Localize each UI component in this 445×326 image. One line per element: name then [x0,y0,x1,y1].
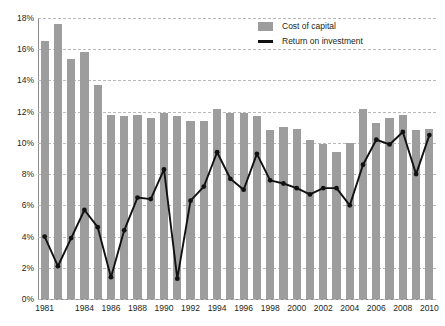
x-axis-tick-label: 2000 [287,303,306,313]
roi-data-point [241,187,246,192]
roi-data-point [82,208,87,213]
roi-data-point [122,228,127,233]
roi-data-point [387,142,392,147]
legend-item-return-on-investment: Return on investment [258,35,363,48]
y-axis-tick-label: 12% [17,107,34,117]
x-axis-tick-label: 1981 [35,303,54,313]
roi-data-point [268,178,273,183]
roi-data-point [162,167,167,172]
roi-data-point [414,172,419,177]
y-axis-tick-label: 6% [22,200,34,210]
plot-area [38,18,436,299]
roi-data-point [56,264,61,269]
line-series-return-on-investment [38,18,436,299]
legend-bar-swatch-icon [258,22,273,31]
roi-data-point [175,276,180,281]
legend-label-return-on-investment: Return on investment [282,37,363,47]
roi-data-point [201,184,206,189]
roi-data-point [188,198,193,203]
x-axis-tick-label: 2006 [367,303,386,313]
y-axis-tick-label: 0% [22,294,34,304]
y-axis-tick-label: 2% [22,263,34,273]
x-axis-tick-label: 1990 [155,303,174,313]
x-axis-tick-label: 2010 [420,303,439,313]
roi-data-point [347,203,352,208]
legend-line-swatch-icon [258,37,273,46]
roi-data-point [42,234,47,239]
x-axis-tick-label: 2008 [393,303,412,313]
x-axis-tick-label: 1998 [261,303,280,313]
x-axis-tick-label: 1988 [128,303,147,313]
roi-line-svg [38,18,436,299]
roi-data-point [427,133,432,138]
y-axis-tick-labels: 0%2%4%6%8%10%12%14%16%18% [0,18,34,299]
chart-legend: Cost of capital Return on investment [258,20,363,50]
y-axis-tick-label: 10% [17,138,34,148]
roi-data-point [215,150,220,155]
roi-data-point [69,236,74,241]
y-axis-tick-label: 4% [22,232,34,242]
legend-item-cost-of-capital: Cost of capital [258,20,363,33]
roi-data-point [294,186,299,191]
x-axis-tick-label: 1986 [101,303,120,313]
legend-label-cost-of-capital: Cost of capital [282,22,336,32]
y-axis-tick-label: 8% [22,169,34,179]
roi-data-point [109,275,114,280]
roi-data-point [95,225,100,230]
roi-data-point [400,130,405,135]
roi-data-point [374,137,379,142]
roi-data-point [228,176,233,181]
roi-data-point [308,192,313,197]
y-axis-tick-label: 18% [17,13,34,23]
x-axis-tick-label: 2002 [314,303,333,313]
x-axis-tick-label: 1992 [181,303,200,313]
roi-data-point [255,151,260,156]
chart-container: 0%2%4%6%8%10%12%14%16%18% 19811984198619… [0,0,445,326]
roi-data-point [135,195,140,200]
roi-data-point [148,197,153,202]
x-axis-tick-label: 1994 [208,303,227,313]
y-axis-tick-label: 14% [17,75,34,85]
x-axis-tick-label: 2004 [340,303,359,313]
roi-data-point [281,181,286,186]
roi-data-point [361,162,366,167]
roi-data-point [321,186,326,191]
roi-line-path [45,132,430,279]
roi-data-point [334,186,339,191]
x-axis-tick-label: 1984 [75,303,94,313]
gridline [38,299,436,300]
y-axis-tick-label: 16% [17,44,34,54]
x-axis-tick-label: 1996 [234,303,253,313]
